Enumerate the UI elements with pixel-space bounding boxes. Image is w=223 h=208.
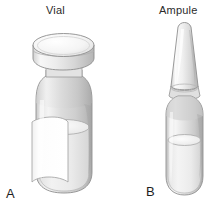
ampule-illustration [166, 23, 203, 196]
figure-container: Vial Ampule [0, 0, 223, 208]
panel-letter-a: A [6, 186, 15, 201]
vial-cap-top [33, 34, 94, 57]
illustration-artwork [0, 0, 223, 208]
vial-shoulder-shading [36, 76, 92, 108]
ampule-liquid-surface [168, 135, 201, 146]
vial-illustration [32, 34, 94, 194]
vial-paper-label [32, 117, 68, 182]
panel-letter-b: B [146, 184, 155, 199]
